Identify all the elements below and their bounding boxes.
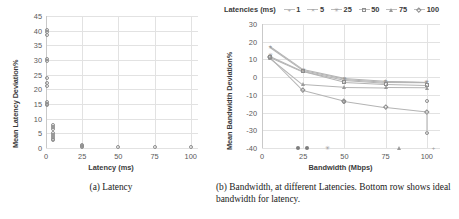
legend-marker-50	[359, 7, 370, 13]
legend-item-50[interactable]: 50	[359, 5, 380, 14]
legend-marker-75	[386, 7, 397, 13]
chart-a-y-tick: 10	[16, 115, 42, 124]
legend-symbol-75	[389, 8, 393, 12]
chart-a-x-tick: 75	[141, 152, 169, 161]
chart-a-plot-area	[46, 16, 198, 148]
ideal-bandwidth-marker	[305, 146, 309, 150]
chart-b-y-axis-label: Mean Bandwidth Deviation%	[225, 52, 234, 150]
legend-label-25: 25	[344, 5, 352, 14]
series-line-segment	[426, 112, 427, 133]
legend-items: +1×5✳255075100	[284, 5, 446, 14]
series-line-segment	[386, 87, 427, 88]
legend-marker-25: ✳	[331, 7, 342, 13]
chart-a-data-point	[51, 127, 55, 131]
legend-item-75[interactable]: 75	[386, 5, 407, 14]
chart-a-data-point	[153, 145, 157, 149]
legend-item-25[interactable]: ✳25	[331, 5, 352, 14]
gridline-horizontal	[46, 148, 198, 149]
chart-a-y-tick: 25	[16, 71, 42, 80]
chart-b-y-tick: -10	[232, 91, 257, 100]
gridline-horizontal	[262, 113, 440, 114]
legend-label-75: 75	[399, 5, 407, 14]
caption-b: (b) Bandwidth, at different Latencies. B…	[216, 181, 459, 205]
series-line-segment	[344, 101, 385, 108]
chart-a-data-point	[80, 145, 84, 149]
ideal-bandwidth-marker: ✳	[325, 146, 330, 151]
chart-a-x-tick: 100	[177, 152, 205, 161]
series-line-segment	[303, 90, 344, 101]
gridline-horizontal	[46, 119, 198, 120]
series-100-point	[300, 88, 305, 93]
legend-marker-1: +	[284, 7, 295, 13]
legend-item-5[interactable]: ×5	[307, 5, 324, 14]
legend-title: Latencies (ms)	[224, 5, 276, 14]
gridline-horizontal	[46, 104, 198, 105]
series-75-point	[342, 85, 346, 89]
gridline-horizontal	[46, 60, 198, 61]
legend-marker-100	[414, 7, 425, 13]
chart-b-legend: Latencies (ms) +1×5✳255075100	[224, 5, 446, 14]
chart-b-x-tick: 75	[372, 152, 400, 161]
gridline-horizontal	[46, 133, 198, 134]
chart-a-y-tick: 35	[16, 41, 42, 50]
legend-label-50: 50	[371, 5, 379, 14]
chart-a-y-tick: 45	[16, 12, 42, 21]
legend-symbol-25: ✳	[334, 8, 339, 13]
chart-b-y-tick: 0	[232, 73, 257, 82]
chart-b-x-tick: 100	[413, 152, 441, 161]
chart-a-y-tick: 5	[16, 129, 42, 138]
chart-a-x-axis-label: Latency (ms)	[0, 163, 222, 172]
series-75-point	[301, 82, 305, 86]
gridline-horizontal	[262, 130, 440, 131]
chart-b-y-tick: 10	[232, 55, 257, 64]
chart-a-y-tick: 20	[16, 85, 42, 94]
caption-a: (a) Latency	[0, 181, 222, 193]
gridline-horizontal	[46, 45, 198, 46]
legend-symbol-5: ×	[310, 8, 315, 13]
chart-b-y-tick: 30	[232, 20, 257, 29]
legend-label-100: 100	[427, 5, 439, 14]
legend-symbol-100	[416, 7, 421, 12]
series-line-segment	[303, 84, 344, 88]
legend-symbol-1: +	[287, 8, 292, 13]
gridline-vertical	[155, 16, 156, 148]
chart-a-x-tick: 50	[104, 152, 132, 161]
chart-b-x-tick: 0	[248, 152, 276, 161]
chart-b-y-axis-line	[262, 24, 263, 148]
series-line-segment	[386, 84, 427, 86]
gridline-vertical	[191, 16, 192, 148]
gridline-horizontal	[262, 42, 440, 43]
gridline-horizontal	[46, 31, 198, 32]
gridline-horizontal	[46, 75, 198, 76]
chart-a-data-point	[45, 76, 49, 80]
gridline-vertical	[118, 16, 119, 148]
series-line-segment	[270, 57, 304, 91]
chart-b-plot-area: +++++×××××✳✳✳✳✳✳+	[262, 24, 440, 148]
gridline-horizontal	[262, 24, 440, 25]
chart-b-x-axis-label: Bandwidth (Mbps)	[222, 163, 459, 172]
series-50-point	[301, 69, 305, 73]
chart-b-x-tick: 25	[289, 152, 317, 161]
legend-symbol-50	[362, 8, 366, 12]
chart-a-x-tick: 25	[68, 152, 96, 161]
legend-item-100[interactable]: 100	[414, 5, 439, 14]
series-75-point	[425, 86, 429, 90]
ideal-bandwidth-marker	[397, 146, 401, 150]
series-100-point	[383, 105, 388, 110]
chart-a-data-point	[45, 33, 49, 37]
chart-b-y-tick: 20	[232, 38, 257, 47]
chart-a-data-point	[45, 59, 49, 63]
chart-a-y-tick: 40	[16, 27, 42, 36]
gridline-vertical	[82, 16, 83, 148]
gridline-horizontal	[46, 89, 198, 90]
legend-item-1[interactable]: +1	[284, 5, 301, 14]
series-line-segment	[344, 87, 385, 88]
series-5-point: ×	[268, 45, 273, 50]
outlier-50-low	[342, 100, 346, 104]
legend-label-1: 1	[296, 5, 300, 14]
chart-b-y-tick: -20	[232, 109, 257, 118]
chart-a-x-tick: 0	[32, 152, 60, 161]
chart-b-x-tick: 50	[330, 152, 358, 161]
chart-a-data-point	[45, 84, 49, 88]
outlier-100-mid	[425, 99, 429, 103]
